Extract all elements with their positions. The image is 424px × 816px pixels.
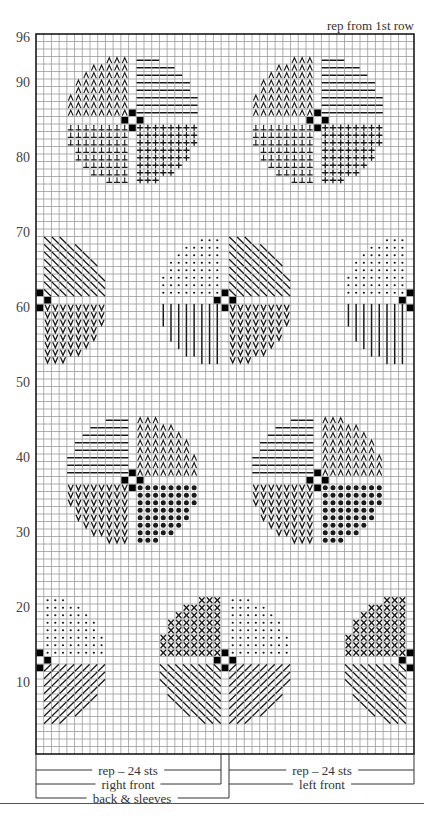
- big-dot-symbol: [138, 500, 143, 505]
- vee-symbol: [230, 350, 235, 355]
- center-block: [322, 477, 329, 484]
- inverted-t-symbol: [307, 148, 312, 153]
- big-dot-symbol: [176, 493, 181, 498]
- backslash-symbol: [384, 717, 390, 723]
- caret-symbol: [354, 433, 359, 438]
- cross-symbol: [207, 650, 212, 655]
- plus-symbol: [361, 125, 366, 130]
- small-dot-symbol: [255, 637, 257, 639]
- big-dot-symbol: [338, 485, 343, 490]
- big-dot-symbol: [184, 508, 189, 513]
- plus-symbol: [377, 125, 382, 130]
- caret-symbol: [346, 455, 351, 460]
- backslash-symbol: [376, 710, 382, 716]
- plus-symbol: [176, 155, 181, 160]
- slash-symbol: [52, 702, 58, 708]
- small-dot-symbol: [193, 292, 195, 294]
- inverted-t-symbol: [115, 125, 120, 130]
- caret-symbol: [277, 110, 282, 115]
- plus-symbol: [330, 163, 335, 168]
- big-dot-symbol: [354, 515, 359, 520]
- vee-symbol: [122, 508, 127, 513]
- big-dot-symbol: [338, 538, 343, 543]
- plus-symbol: [369, 155, 374, 160]
- big-dot-symbol: [168, 508, 173, 513]
- backslash-symbol: [361, 680, 367, 686]
- inverted-t-symbol: [107, 163, 112, 168]
- backslash-symbol: [168, 665, 174, 671]
- plus-symbol: [176, 125, 181, 130]
- vee-symbol: [68, 335, 73, 340]
- plus-symbol: [168, 148, 173, 153]
- plus-symbol: [330, 140, 335, 145]
- small-dot-symbol: [239, 622, 241, 624]
- slash-symbol: [83, 665, 89, 671]
- inverted-t-symbol: [277, 155, 282, 160]
- small-dot-symbol: [232, 629, 234, 631]
- vee-symbol: [84, 493, 89, 498]
- slash-symbol: [253, 665, 259, 671]
- inverted-t-symbol: [284, 170, 289, 175]
- vee-symbol: [238, 343, 243, 348]
- caret-symbol: [169, 448, 174, 453]
- cross-symbol: [176, 613, 181, 618]
- vee-symbol: [292, 523, 297, 528]
- vee-symbol: [107, 515, 112, 520]
- small-dot-symbol: [401, 254, 403, 256]
- caret-symbol: [269, 88, 274, 93]
- vee-symbol: [284, 320, 289, 325]
- plus-symbol: [330, 178, 335, 183]
- caret-symbol: [107, 88, 112, 93]
- cross-symbol: [215, 613, 220, 618]
- vee-symbol: [230, 358, 235, 363]
- caret-symbol: [68, 95, 73, 100]
- plus-symbol: [153, 178, 158, 183]
- small-dot-symbol: [355, 284, 357, 286]
- cross-symbol: [199, 598, 204, 603]
- slash-symbol: [245, 665, 251, 671]
- caret-symbol: [362, 463, 367, 468]
- cross-symbol: [215, 635, 220, 640]
- small-dot-symbol: [386, 277, 388, 279]
- caret-symbol: [146, 463, 151, 468]
- cross-symbol: [199, 643, 204, 648]
- plus-symbol: [168, 155, 173, 160]
- knitting-chart-grid: [0, 0, 424, 816]
- small-dot-symbol: [62, 629, 64, 631]
- backslash-symbol: [99, 275, 105, 281]
- cross-symbol: [392, 598, 397, 603]
- vee-symbol: [238, 313, 243, 318]
- slash-symbol: [230, 687, 236, 693]
- small-dot-symbol: [394, 262, 396, 264]
- small-dot-symbol: [255, 644, 257, 646]
- backslash-symbol: [376, 672, 382, 678]
- slash-symbol: [68, 687, 74, 693]
- backslash-symbol: [99, 282, 105, 288]
- cross-symbol: [207, 598, 212, 603]
- vee-symbol: [308, 523, 313, 528]
- caret-symbol: [138, 448, 143, 453]
- vee-symbol: [122, 493, 127, 498]
- vee-symbol: [92, 515, 97, 520]
- slash-symbol: [245, 710, 251, 716]
- small-dot-symbol: [255, 622, 257, 624]
- vee-symbol: [254, 485, 259, 490]
- center-block: [314, 470, 321, 477]
- cross-symbol: [176, 628, 181, 633]
- vee-symbol: [68, 493, 73, 498]
- small-dot-symbol: [185, 277, 187, 279]
- backslash-symbol: [83, 282, 89, 288]
- center-block: [306, 117, 313, 124]
- vee-symbol: [53, 343, 58, 348]
- backslash-symbol: [261, 290, 267, 296]
- inverted-t-symbol: [99, 170, 104, 175]
- vee-symbol: [269, 328, 274, 333]
- small-dot-symbol: [270, 614, 272, 616]
- plus-symbol: [184, 148, 189, 153]
- slash-symbol: [268, 687, 274, 693]
- backslash-symbol: [199, 702, 205, 708]
- small-dot-symbol: [255, 652, 257, 654]
- small-dot-symbol: [185, 254, 187, 256]
- vee-symbol: [84, 500, 89, 505]
- slash-symbol: [245, 695, 251, 701]
